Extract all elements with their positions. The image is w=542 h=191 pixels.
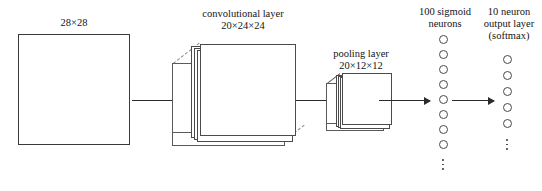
cnn-architecture-diagram: 28×28 convolutional layer 20×24×24 pooli… xyxy=(0,0,542,191)
output-layer-label-line1: 10 neuron xyxy=(477,6,541,18)
conv-layer-dims: 20×24×24 xyxy=(178,20,308,32)
output-layer-label-line2: output layer xyxy=(477,18,541,30)
hidden-neuron xyxy=(439,65,448,74)
pooling-layer-stack xyxy=(322,70,398,150)
arrow-pooling-to-hidden xyxy=(379,100,430,101)
output-neuron xyxy=(503,71,512,80)
hidden-neuron xyxy=(439,140,448,149)
hidden-neuron xyxy=(439,50,448,59)
hidden-neuron-column xyxy=(436,35,450,170)
input-label: 28×28 xyxy=(18,17,130,29)
output-layer-ellipsis xyxy=(506,139,508,150)
hidden-neuron xyxy=(439,110,448,119)
hidden-layer-label-line1: 100 sigmoid xyxy=(405,6,485,18)
hidden-neuron xyxy=(439,35,448,44)
output-neuron xyxy=(503,119,512,128)
conv-feature-map-front xyxy=(200,44,296,136)
conv-layer-name: convolutional layer xyxy=(178,8,308,20)
output-neuron xyxy=(503,55,512,64)
conv-layer-stack xyxy=(166,40,296,170)
hidden-layer-label-line2: neurons xyxy=(405,18,485,30)
hidden-layer-ellipsis xyxy=(442,159,444,170)
hidden-neuron xyxy=(439,95,448,104)
hidden-neuron xyxy=(439,125,448,134)
output-neuron-column xyxy=(500,55,514,150)
pooling-feature-map-front xyxy=(342,73,392,125)
arrow-hidden-to-output xyxy=(452,100,494,101)
output-layer-label-line3: (softmax) xyxy=(477,30,541,42)
pooling-layer-name: pooling layer xyxy=(313,48,409,60)
output-neuron xyxy=(503,103,512,112)
output-neuron xyxy=(503,87,512,96)
input-plane xyxy=(18,34,130,145)
hidden-neuron xyxy=(439,80,448,89)
